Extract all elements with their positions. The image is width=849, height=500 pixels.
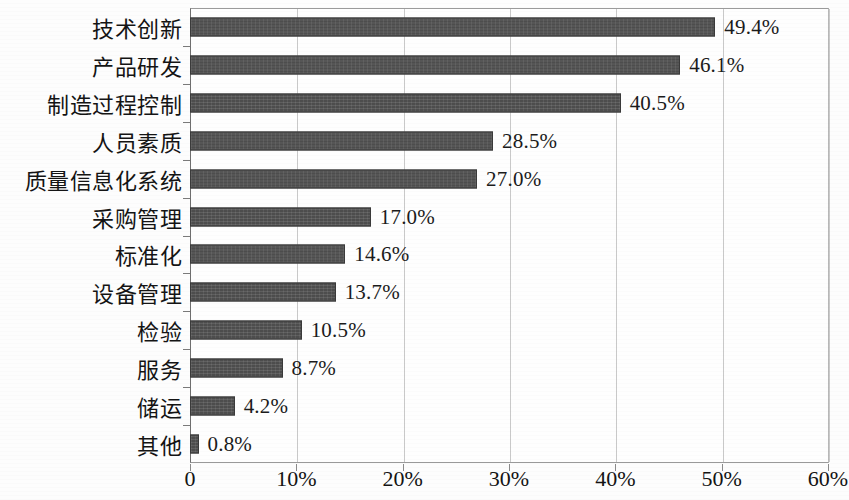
bar-row: 46.1% [190,46,829,84]
bar-row: 8.7% [190,349,829,387]
value-axis-tick [828,464,829,471]
category-label: 其他 [137,425,182,463]
bar-value-label: 14.6% [354,242,409,267]
category-axis-tick [183,387,190,388]
bar-value-label: 17.0% [380,204,435,229]
bar[interactable] [190,397,235,416]
bar[interactable] [190,359,283,378]
bar-value-label: 4.2% [244,394,289,419]
bar-value-label: 10.5% [311,318,366,343]
category-label: 设备管理 [92,273,182,311]
category-label: 技术创新 [92,8,182,46]
bar-row: 10.5% [190,311,829,349]
category-axis-tick [183,84,190,85]
bar-row: 4.2% [190,387,829,425]
value-axis-tick [722,464,723,471]
bar-value-label: 49.4% [724,14,779,39]
value-axis-tick [296,464,297,471]
bar[interactable] [190,245,345,264]
category-axis-tick [183,311,190,312]
category-axis-tick [183,198,190,199]
bar[interactable] [190,321,302,340]
bar[interactable] [190,93,621,112]
value-axis-tick [509,464,510,471]
category-axis-tick [183,122,190,123]
bar-row: 17.0% [190,198,829,236]
bar-row: 49.4% [190,8,829,46]
bar[interactable] [190,283,336,302]
category-label: 制造过程控制 [47,84,182,122]
bar-value-label: 40.5% [630,90,685,115]
bar-row: 13.7% [190,273,829,311]
bar-value-label: 8.7% [292,356,337,381]
bar[interactable] [190,131,493,150]
category-axis-tick [183,425,190,426]
category-axis-tick [183,160,190,161]
category-label: 产品研发 [92,46,182,84]
bar-value-label: 13.7% [345,280,400,305]
bar-chart: 技术创新产品研发制造过程控制人员素质质量信息化系统采购管理标准化设备管理检验服务… [0,0,849,500]
value-axis-tick [615,464,616,471]
value-axis-tick [190,464,191,471]
bar-row: 28.5% [190,122,829,160]
bar[interactable] [190,435,199,454]
category-axis-tick [183,46,190,47]
bar[interactable] [190,55,680,74]
category-axis-tick [183,236,190,237]
category-axis-tick [183,349,190,350]
bar[interactable] [190,17,715,36]
bar-row: 40.5% [190,84,829,122]
bar-value-label: 27.0% [486,166,541,191]
category-label: 检验 [137,311,182,349]
bar-value-label: 0.8% [208,432,253,457]
category-label: 质量信息化系统 [25,160,183,198]
bar-row: 0.8% [190,425,829,463]
value-axis-tick [403,464,404,471]
category-axis-labels: 技术创新产品研发制造过程控制人员素质质量信息化系统采购管理标准化设备管理检验服务… [0,8,182,463]
bar[interactable] [190,169,477,188]
gridline [829,9,830,462]
category-label: 人员素质 [92,122,182,160]
bar-row: 14.6% [190,236,829,274]
category-label: 采购管理 [92,198,182,236]
bar[interactable] [190,207,371,226]
category-label: 服务 [137,349,182,387]
bar-row: 27.0% [190,160,829,198]
category-axis-tick [183,273,190,274]
category-label: 标准化 [115,236,183,274]
bar-value-label: 46.1% [689,52,744,77]
category-label: 储运 [137,387,182,425]
bar-value-label: 28.5% [502,128,557,153]
bars-container: 49.4%46.1%40.5%28.5%27.0%17.0%14.6%13.7%… [190,8,829,463]
value-axis-labels: 010%20%30%40%50%60% [190,466,829,500]
